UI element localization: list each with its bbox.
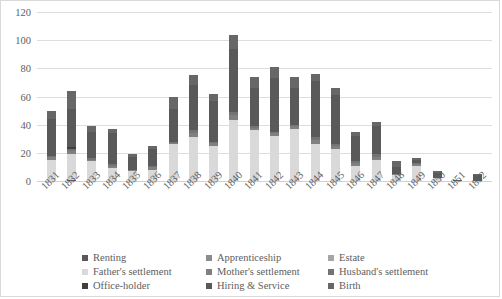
legend-row: Father's settlementMother's settlementHu… [74, 266, 426, 277]
legend-label: Husband's settlement [339, 266, 428, 277]
legend-item[interactable]: Renting [74, 252, 206, 263]
bar-slot-1850 [427, 12, 447, 181]
bar-segment [108, 133, 117, 164]
legend-swatch-birth [328, 283, 334, 289]
bar-slot-1834 [102, 12, 122, 181]
legend-item[interactable]: Apprenticeship [206, 252, 328, 263]
bar-segment [67, 91, 76, 109]
x-axis-slot: 1851 [447, 182, 467, 218]
stacked-bar[interactable] [311, 74, 320, 181]
bar-segment [87, 132, 96, 159]
legend-label: Estate [339, 252, 365, 263]
legend-swatch-husbands-settlement [328, 269, 334, 275]
stacked-bar[interactable] [331, 88, 340, 181]
bar-series-group [37, 12, 492, 181]
legend-item[interactable]: Office-holder [74, 280, 206, 291]
bar-slot-1836 [143, 12, 163, 181]
y-axis-tick-100: 100 [15, 35, 31, 46]
bar-segment [331, 88, 340, 95]
x-axis-slot: 1845 [325, 182, 345, 218]
bar-slot-1832 [61, 12, 81, 181]
bar-segment [351, 136, 360, 161]
bar-slot-1844 [305, 12, 325, 181]
legend-label: Renting [93, 252, 126, 263]
bar-segment [250, 88, 259, 126]
bar-segment [250, 77, 259, 88]
bar-segment [290, 77, 299, 88]
bar-segment [331, 95, 340, 144]
stacked-bar[interactable] [229, 35, 238, 181]
bar-segment [148, 149, 157, 166]
x-axis-slot: 1838 [183, 182, 203, 218]
bar-slot-1846 [346, 12, 366, 181]
legend-item[interactable]: Estate [328, 252, 426, 263]
legend-label: Birth [339, 280, 361, 291]
x-axis-slot: 1842 [264, 182, 284, 218]
legend-item[interactable]: Birth [328, 280, 426, 291]
bar-slot-1831 [41, 12, 61, 181]
bar-slot-1843 [285, 12, 305, 181]
x-axis-slot: 1848 [386, 182, 406, 218]
legend-label: Mother's settlement [217, 266, 300, 277]
x-axis-slot: 1835 [122, 182, 142, 218]
stacked-bar[interactable] [169, 97, 178, 181]
bar-segment [270, 67, 279, 78]
x-axis-slot: 1836 [143, 182, 163, 218]
x-axis-slot: 1852 [468, 182, 488, 218]
legend-swatch-hiring-and-service [206, 283, 212, 289]
bar-segment [209, 101, 218, 142]
stacked-bar[interactable] [290, 77, 299, 181]
legend-label: Office-holder [93, 280, 150, 291]
legend-swatch-apprenticeship [206, 255, 212, 261]
stacked-bar[interactable] [270, 67, 279, 181]
bar-segment [169, 97, 178, 110]
x-axis-slot: 1833 [82, 182, 102, 218]
x-axis-slot: 1831 [41, 182, 61, 218]
x-axis-slot: 1850 [427, 182, 447, 218]
stacked-bar[interactable] [209, 94, 218, 181]
bar-slot-1851 [447, 12, 467, 181]
legend-label: Father's settlement [93, 266, 172, 277]
legend-item[interactable]: Husband's settlement [328, 266, 426, 277]
bar-slot-1847 [366, 12, 386, 181]
y-axis: 020406080100120 [1, 12, 35, 181]
legend-swatch-renting [82, 255, 88, 261]
bar-segment [169, 109, 178, 141]
bar-segment [209, 94, 218, 101]
x-axis-slot: 1839 [204, 182, 224, 218]
x-axis-slot: 1847 [366, 182, 386, 218]
bar-segment [290, 88, 299, 125]
bar-segment [47, 119, 56, 156]
y-axis-tick-60: 60 [21, 91, 32, 102]
bar-segment [189, 75, 198, 85]
bar-slot-1841 [244, 12, 264, 181]
legend-label: Hiring & Service [217, 280, 289, 291]
plot-area [37, 12, 492, 181]
y-axis-tick-80: 80 [21, 63, 32, 74]
y-axis-tick-40: 40 [21, 119, 32, 130]
legend-item[interactable]: Father's settlement [74, 266, 206, 277]
stacked-bar[interactable] [189, 75, 198, 181]
x-axis-slot: 1832 [61, 182, 81, 218]
x-axis-slot: 1844 [305, 182, 325, 218]
bar-slot-1835 [122, 12, 142, 181]
x-axis-slot: 1840 [224, 182, 244, 218]
legend-item[interactable]: Mother's settlement [206, 266, 328, 277]
legend-row: Office-holderHiring & ServiceBirth [74, 280, 426, 291]
legend-swatch-estate [328, 255, 334, 261]
legend-row: RentingApprenticeshipEstate [74, 252, 426, 263]
x-axis-slot: 1834 [102, 182, 122, 218]
bar-slot-1840 [224, 12, 244, 181]
x-axis-slot: 1843 [285, 182, 305, 218]
bar-slot-1842 [264, 12, 284, 181]
stacked-bar[interactable] [67, 91, 76, 181]
x-axis-slot: 1846 [346, 182, 366, 218]
chart-container: 020406080100120 183118321833183418351836… [0, 0, 500, 297]
bar-slot-1849 [407, 12, 427, 181]
stacked-bar[interactable] [250, 77, 259, 181]
bar-segment [311, 81, 320, 137]
bar-segment [229, 49, 238, 112]
legend-swatch-fathers-settlement [82, 269, 88, 275]
bar-segment [270, 78, 279, 132]
legend-item[interactable]: Hiring & Service [206, 280, 328, 291]
